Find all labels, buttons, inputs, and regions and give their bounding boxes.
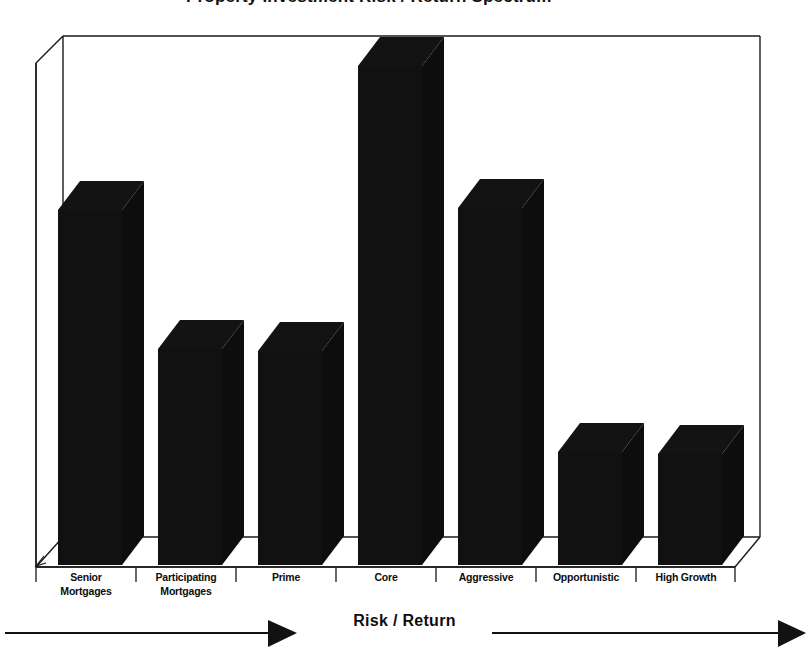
bar-prime	[258, 322, 344, 565]
bar-front-face	[258, 351, 322, 565]
bar-front-face	[358, 66, 422, 565]
category-label-opportunistic: Opportunistic	[536, 570, 636, 584]
category-label-high-growth: High Growth	[636, 570, 736, 584]
bar-front-face	[558, 452, 622, 565]
category-label-core: Core	[336, 570, 436, 584]
category-label-senior-mortgages: Senior Mortgages	[36, 570, 136, 598]
bar-side-face	[322, 322, 344, 565]
axis-caption-risk-return: Risk / Return	[0, 612, 809, 630]
category-label-prime: Prime	[236, 570, 336, 584]
bar-side-face	[422, 37, 444, 565]
bar-side-face	[122, 181, 144, 565]
bar-participating-mortgages	[158, 320, 244, 565]
bar-core	[358, 37, 444, 565]
bar-side-face	[222, 320, 244, 565]
bar-front-face	[658, 454, 722, 565]
bar-senior-mortgages	[58, 181, 144, 565]
category-label-participating-mortgages: Participating Mortgages	[136, 570, 236, 598]
bar-opportunistic	[558, 423, 644, 565]
bar-front-face	[158, 349, 222, 565]
bar-high-growth	[658, 425, 744, 565]
bar-side-face	[522, 179, 544, 565]
bar-front-face	[58, 210, 122, 565]
depth-edge-top-left	[36, 36, 63, 63]
category-label-aggressive: Aggressive	[436, 570, 536, 584]
chart-canvas: Property Investment Risk / Return Spectr…	[0, 0, 809, 663]
chart-plot-area	[0, 0, 809, 663]
bar-aggressive	[458, 179, 544, 565]
bar-front-face	[458, 208, 522, 565]
